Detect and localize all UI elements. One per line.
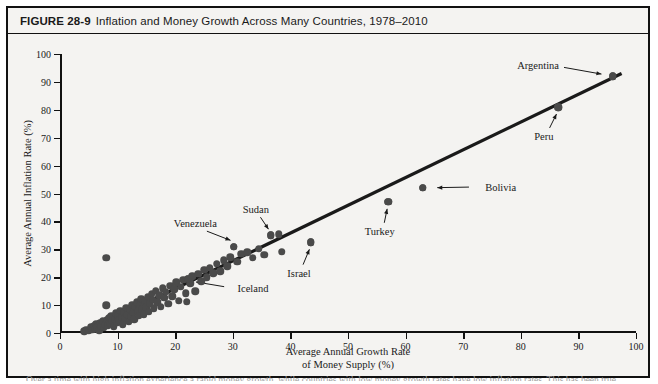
x-tick-70 xyxy=(463,333,464,339)
leader-arrowhead-sudan xyxy=(264,224,269,229)
y-tick-label-0: 0 xyxy=(46,328,51,339)
figure-title: Inflation and Money Growth Across Many C… xyxy=(96,15,428,27)
x-axis-title-line1: Average Annual Growth Rate xyxy=(60,346,636,359)
data-point xyxy=(249,254,257,262)
leader-arrowhead-israel xyxy=(306,249,310,254)
data-point-sudan xyxy=(267,232,275,240)
x-tick-80 xyxy=(521,333,522,339)
x-tick-100 xyxy=(636,333,637,339)
data-point xyxy=(157,303,165,311)
x-tick-50 xyxy=(348,333,349,339)
leader-line-argentina xyxy=(564,67,601,74)
x-axis-title: Average Annual Growth Rate of Money Supp… xyxy=(60,346,636,371)
annotation-label-sudan: Sudan xyxy=(243,203,269,214)
data-point xyxy=(192,287,200,295)
data-point-venezuela xyxy=(230,243,238,251)
figure-container: FIGURE 28-9Inflation and Money Growth Ac… xyxy=(6,6,650,378)
plot-area: 0102030405060708090100010203040506070809… xyxy=(60,54,636,333)
y-tick-label-90: 90 xyxy=(41,76,51,87)
annotation-label-turkey: Turkey xyxy=(365,226,395,237)
data-point xyxy=(165,300,173,308)
data-point xyxy=(261,251,269,259)
data-point-iceland xyxy=(184,275,192,283)
y-tick-label-40: 40 xyxy=(41,216,51,227)
x-tick-0 xyxy=(60,333,61,339)
y-tick-label-50: 50 xyxy=(41,188,51,199)
x-tick-30 xyxy=(233,333,234,339)
figure-caption: Over a time with high inflation experien… xyxy=(26,375,636,381)
data-point-israel xyxy=(307,238,315,246)
leader-arrowhead-venezuela xyxy=(225,237,230,241)
data-point xyxy=(102,301,110,309)
data-point xyxy=(275,230,283,238)
data-point xyxy=(223,262,231,270)
page-title: FIGURE 28-9Inflation and Money Growth Ac… xyxy=(20,15,428,27)
annotation-label-argentina: Argentina xyxy=(517,60,559,71)
x-tick-10 xyxy=(118,333,119,339)
data-point-argentina xyxy=(609,73,617,81)
annotation-label-bolivia: Bolivia xyxy=(485,181,516,192)
y-axis-title: Average Annual Inflation Rate (%) xyxy=(22,54,33,333)
x-tick-20 xyxy=(175,333,176,339)
annotation-label-israel: Israel xyxy=(287,268,310,279)
leader-arrowhead-turkey xyxy=(384,209,388,214)
figure-number: FIGURE 28-9 xyxy=(20,15,91,27)
x-tick-60 xyxy=(406,333,407,339)
x-tick-40 xyxy=(290,333,291,339)
data-point xyxy=(234,258,242,266)
x-tick-90 xyxy=(578,333,579,339)
annotation-leader-lines xyxy=(196,67,602,286)
chart-overlay xyxy=(60,54,636,333)
data-point-bolivia xyxy=(419,184,427,192)
y-tick-label-20: 20 xyxy=(41,272,51,283)
data-point-peru xyxy=(554,103,562,111)
y-tick-label-80: 80 xyxy=(41,104,51,115)
data-point xyxy=(278,248,286,256)
x-axis-title-line2: of Money Supply (%) xyxy=(60,359,636,372)
data-point xyxy=(102,254,110,262)
data-point-turkey xyxy=(385,198,393,206)
data-point xyxy=(183,298,191,306)
annotation-label-iceland: Iceland xyxy=(238,283,269,294)
figure-title-bar: FIGURE 28-9Inflation and Money Growth Ac… xyxy=(8,8,648,34)
leader-arrowhead-argentina xyxy=(596,71,601,75)
y-tick-label-60: 60 xyxy=(41,160,51,171)
data-point xyxy=(175,297,183,305)
data-point xyxy=(182,290,190,298)
y-tick-label-10: 10 xyxy=(41,300,51,311)
y-tick-label-30: 30 xyxy=(41,244,51,255)
annotation-label-venezuela: Venezuela xyxy=(174,217,217,228)
data-point xyxy=(216,267,224,275)
leader-arrowhead-bolivia xyxy=(437,185,442,189)
y-tick-label-70: 70 xyxy=(41,132,51,143)
y-tick-label-100: 100 xyxy=(36,49,51,60)
annotation-label-peru: Peru xyxy=(534,131,553,142)
